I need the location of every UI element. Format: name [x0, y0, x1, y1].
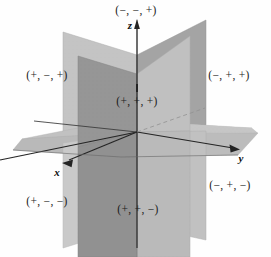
octant-label-plus-plus-plus: (+, +, +) [116, 95, 157, 107]
x-axis-label: x [54, 166, 60, 178]
octant-label-plus-minus-plus: (+, −, +) [26, 69, 67, 81]
paper-grain-overlay [0, 0, 271, 257]
z-axis-label: z [128, 19, 132, 31]
octant-label-plus-minus-minus: (+, −, −) [26, 195, 67, 207]
y-axis-label: y [239, 152, 244, 164]
diagram-canvas [0, 0, 271, 257]
octant-label-minus-plus-plus: (−, +, +) [208, 69, 249, 81]
octant-diagram: (−, −, +) (+, −, +) (−, +, +) (+, +, +) … [0, 0, 271, 257]
octant-label-minus-plus-minus: (−, +, −) [209, 179, 250, 191]
octant-label-plus-plus-minus: (+, +, −) [117, 203, 158, 215]
octant-label-minus-minus-plus: (−, −, +) [115, 4, 156, 16]
